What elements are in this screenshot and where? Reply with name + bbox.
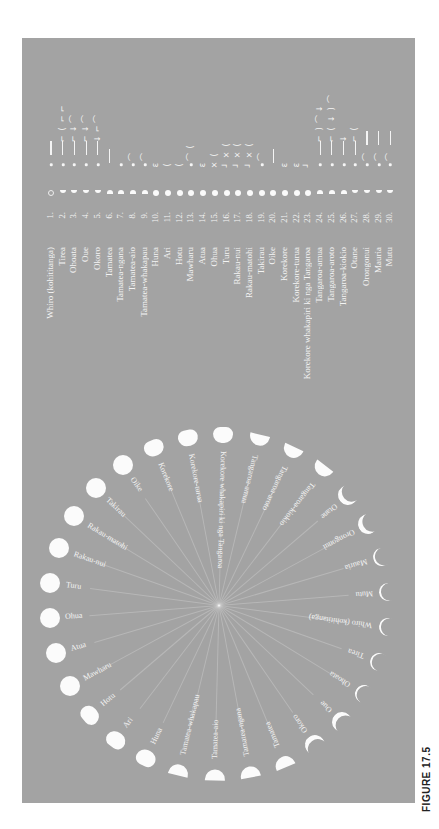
phase-symbol-mark <box>354 164 357 167</box>
day-name: Tamatea-ngana <box>116 247 125 302</box>
phase-symbol-mark: ⌐ <box>59 116 67 123</box>
phase-symbol-mark: ⌐ <box>59 106 67 113</box>
day-name: Otane <box>350 247 359 269</box>
wheel-moon-icon <box>60 676 80 696</box>
wheel-day-label: Ohua <box>65 612 83 621</box>
day-number: 15. <box>210 212 219 223</box>
day-number: 21. <box>280 212 289 223</box>
day-name: Tirea <box>58 247 67 266</box>
phase-symbol-mark: ⌒ <box>141 153 149 161</box>
day-name: Rakau-matohi <box>245 247 254 298</box>
day-number: 6. <box>105 212 114 218</box>
phase-symbol-mark: ↓ <box>82 126 90 133</box>
phase-symbol-mark: ( <box>351 127 359 130</box>
phase-symbol-mark: × <box>246 152 254 159</box>
phase-symbol-mark: ɛ <box>281 163 289 167</box>
phase-symbol-mark <box>120 164 123 167</box>
phase-symbol-mark: ⌐ <box>70 136 78 143</box>
moon-phase-icon <box>118 190 124 194</box>
day-number: 2. <box>58 212 67 218</box>
day-number: 27. <box>350 212 359 223</box>
phase-symbol-mark: ɛ <box>293 163 301 167</box>
day-name: Tangaroa-aroto <box>327 247 336 302</box>
day-name: Whiro (kohititanga) <box>46 247 55 319</box>
phase-bar-mark <box>390 131 391 145</box>
figure-caption: FIGURE 17.5 <box>421 746 432 812</box>
phase-symbol-mark: ⌒ <box>70 115 78 123</box>
moon-phase-icon <box>212 190 218 196</box>
moon-phase-icon <box>224 190 230 196</box>
day-name: Hotu <box>175 247 184 265</box>
day-number: 17. <box>233 212 242 223</box>
phase-bar-mark <box>109 149 110 163</box>
phase-symbol-mark: ( <box>211 153 219 156</box>
day-name: Tamatea-aio <box>128 247 137 291</box>
day-number: 8. <box>128 212 137 218</box>
phase-bar-mark <box>86 141 87 155</box>
phase-symbol-mark: ↓ <box>94 136 102 143</box>
day-number: 5. <box>93 212 102 218</box>
phase-symbol-mark: ( <box>164 163 172 166</box>
day-number: 16. <box>222 212 231 223</box>
wheel-moon-icon <box>49 538 69 558</box>
wheel-day-label: Tamatea-aio <box>211 719 220 759</box>
phase-symbol-mark: ↓ <box>70 126 78 133</box>
phase-symbol-mark: × <box>223 152 231 159</box>
moon-phase-icon <box>48 190 54 196</box>
day-number: 28. <box>362 212 371 223</box>
phase-symbol-mark <box>85 164 88 167</box>
day-number: 29. <box>374 212 383 223</box>
phase-symbol-mark: ⌒ <box>187 153 195 161</box>
phase-bar-mark <box>97 141 98 155</box>
phase-symbol-mark <box>377 164 380 167</box>
phase-symbol-mark: ⌒ <box>82 115 90 123</box>
phase-symbol-mark: ⌒ <box>375 153 383 161</box>
day-name: Takirau <box>257 247 266 274</box>
day-name: Oike <box>268 247 277 265</box>
phase-bar-mark <box>320 141 321 155</box>
phase-symbol-mark: ( <box>176 163 184 166</box>
day-number: 12. <box>175 212 184 223</box>
day-name: Tamatea <box>105 247 114 277</box>
phase-symbol-mark <box>331 164 334 167</box>
day-number: 9. <box>140 212 149 218</box>
moon-phase-icon <box>259 190 265 196</box>
phase-symbol-mark: ⌒ <box>316 115 324 123</box>
wheel-moon-icon <box>40 608 60 628</box>
phase-bar-mark <box>331 141 332 155</box>
moon-phase-icon <box>294 190 300 196</box>
phase-symbol-mark <box>50 164 53 167</box>
day-number: 30. <box>385 212 394 223</box>
phase-bar-mark <box>343 141 344 155</box>
day-number: 4. <box>81 212 90 218</box>
moon-phase-icon <box>130 190 136 194</box>
phase-symbol-mark: ⌐ <box>328 136 336 143</box>
phase-symbol-mark: × <box>211 162 219 169</box>
phase-symbol-mark: ↓ <box>316 106 324 113</box>
day-name: Mauria <box>374 247 383 273</box>
moon-phase-icon <box>329 190 335 194</box>
phase-symbol-mark: ↓ <box>328 116 336 123</box>
phase-symbol-mark <box>389 164 392 167</box>
day-name: Tamatea-whakapau <box>140 247 149 317</box>
wheel-moon-icon <box>46 643 66 663</box>
phase-symbol-mark <box>342 164 345 167</box>
wheel-day-label: Turu <box>66 581 82 591</box>
wheel-moon-icon <box>64 506 84 526</box>
phase-bar-mark <box>378 131 379 145</box>
day-number: 1. <box>46 212 55 218</box>
phase-bar-mark <box>366 131 367 145</box>
phase-symbol-mark: ⌐ <box>316 136 324 143</box>
day-name: Rakau-nui <box>233 247 242 285</box>
phase-symbol-mark: ⌒ <box>363 153 371 161</box>
phase-symbol-mark: ɛ <box>199 163 207 167</box>
day-name: Tangaroa-amua <box>315 247 324 303</box>
day-name: Ohua <box>210 247 219 267</box>
day-number: 25. <box>327 212 336 223</box>
phase-symbol-mark: ( <box>223 143 231 146</box>
day-name: Ohoata <box>69 247 78 273</box>
phase-symbol-mark: ┘ <box>246 163 254 168</box>
moon-phase-icon <box>177 190 183 196</box>
phase-symbol-mark: ⌒ <box>129 153 137 161</box>
day-name: Mutu <box>385 247 394 267</box>
